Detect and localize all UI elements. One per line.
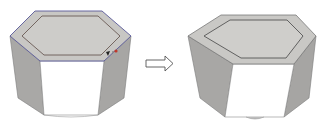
left-hexagonal-prism <box>10 11 131 117</box>
diagram-canvas <box>0 0 326 131</box>
right-hexagonal-prism <box>188 15 316 119</box>
left-prism-front-face <box>40 61 104 115</box>
right-arrow-icon <box>146 56 173 71</box>
right-prism-front-face <box>225 64 294 117</box>
